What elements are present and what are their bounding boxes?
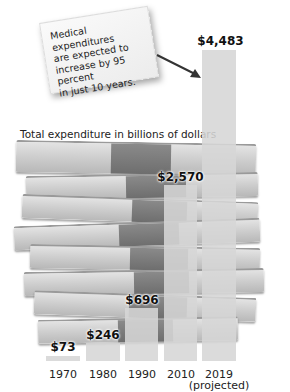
bar-1970 (46, 356, 80, 361)
value-label-1990: $696 (120, 293, 164, 307)
x-label-2019-projected: (projected) (187, 379, 251, 392)
bar-2019 (202, 50, 236, 361)
bar-2010 (164, 185, 197, 361)
value-label-2010: $2,570 (153, 170, 208, 184)
bar-1990 (125, 308, 158, 361)
bar-1980 (86, 343, 120, 361)
value-label-1970: $73 (43, 340, 83, 354)
value-label-2019: $4,483 (193, 34, 248, 48)
value-label-1980: $246 (83, 328, 123, 342)
